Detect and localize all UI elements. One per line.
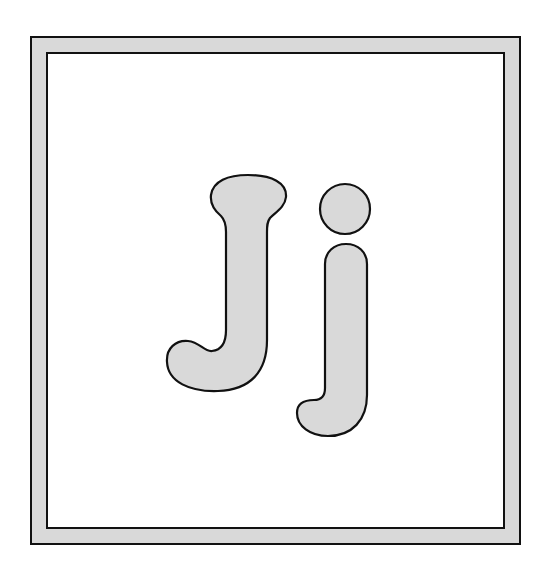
uppercase-j-outline bbox=[167, 175, 286, 391]
lowercase-j-outline bbox=[297, 244, 367, 436]
letter-outline-jj: Jj bbox=[0, 0, 551, 562]
lowercase-j-dot bbox=[320, 184, 370, 234]
